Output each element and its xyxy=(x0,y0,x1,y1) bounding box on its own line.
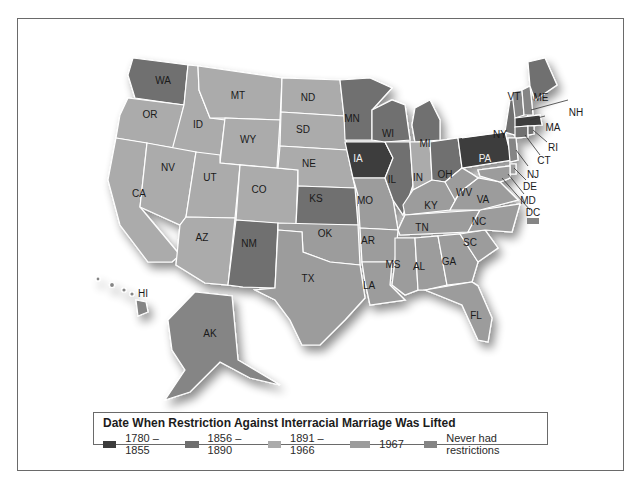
label-NJ: NJ xyxy=(527,169,539,180)
label-OR: OR xyxy=(143,109,158,120)
label-AL: AL xyxy=(413,261,426,272)
legend-item-1856-1890: 1856 – 1890 xyxy=(185,432,247,456)
label-OH: OH xyxy=(438,169,453,180)
label-GA: GA xyxy=(442,256,457,267)
state-KS xyxy=(296,186,358,225)
label-MN: MN xyxy=(344,113,360,124)
state-AK xyxy=(165,292,280,400)
legend-swatch xyxy=(424,441,437,448)
legend-items: 1780 – 1855 1856 – 1890 1891 – 1966 1967… xyxy=(103,432,538,456)
label-WV: WV xyxy=(456,187,472,198)
legend-item-never: Never had restrictions xyxy=(424,432,518,456)
legend-item-1891-1966: 1891 – 1966 xyxy=(268,432,330,456)
label-PA: PA xyxy=(479,153,492,164)
label-MD: MD xyxy=(520,195,536,206)
state-IA xyxy=(345,142,393,178)
legend-label: 1856 – 1890 xyxy=(208,432,248,456)
state-NM xyxy=(228,220,278,288)
label-MO: MO xyxy=(357,195,373,206)
state-SD xyxy=(280,112,347,150)
label-SC: SC xyxy=(463,237,477,248)
legend-swatch xyxy=(185,441,198,448)
label-VA: VA xyxy=(477,194,490,205)
label-KS: KS xyxy=(309,193,323,204)
label-ME: ME xyxy=(534,92,549,103)
state-FL xyxy=(425,282,492,342)
label-MA: MA xyxy=(546,122,561,133)
legend-label: Never had restrictions xyxy=(446,432,518,456)
label-IL: IL xyxy=(388,174,397,185)
legend-item-1967: 1967 xyxy=(350,438,403,450)
legend-swatch xyxy=(268,441,281,448)
legend-title: Date When Restriction Against Interracia… xyxy=(103,416,538,430)
label-TX: TX xyxy=(302,273,315,284)
label-CT: CT xyxy=(537,155,550,166)
label-NH: NH xyxy=(569,107,583,118)
label-AZ: AZ xyxy=(196,232,209,243)
label-CA: CA xyxy=(132,188,146,199)
label-DC: DC xyxy=(526,207,540,218)
label-SD: SD xyxy=(296,124,310,135)
label-VT: VT xyxy=(508,91,521,102)
label-NV: NV xyxy=(161,162,175,173)
legend-swatch xyxy=(350,441,370,448)
label-ID: ID xyxy=(193,119,203,130)
label-NC: NC xyxy=(472,216,486,227)
label-ND: ND xyxy=(301,92,315,103)
label-IN: IN xyxy=(413,172,423,183)
label-WY: WY xyxy=(240,134,256,145)
state-MI xyxy=(412,100,440,142)
label-RI: RI xyxy=(548,142,558,153)
dc-swatch xyxy=(527,218,539,224)
label-KY: KY xyxy=(424,200,438,211)
legend-swatch xyxy=(103,441,116,448)
state-CO xyxy=(236,165,298,225)
legend-item-1780-1855: 1780 – 1855 xyxy=(103,432,165,456)
legend-label: 1891 – 1966 xyxy=(290,432,330,456)
label-NM: NM xyxy=(241,238,257,249)
state-AZ xyxy=(176,217,235,285)
label-WA: WA xyxy=(155,75,171,86)
label-HI: HI xyxy=(138,288,148,299)
label-CO: CO xyxy=(252,184,267,195)
legend: Date When Restriction Against Interracia… xyxy=(93,412,548,445)
label-MI: MI xyxy=(419,138,430,149)
label-NE: NE xyxy=(302,158,316,169)
label-UT: UT xyxy=(203,172,216,183)
label-TN: TN xyxy=(415,222,428,233)
label-DE: DE xyxy=(523,181,537,192)
legend-label: 1967 xyxy=(379,438,403,450)
label-OK: OK xyxy=(318,228,333,239)
label-NY: NY xyxy=(493,129,507,140)
label-AK: AK xyxy=(203,328,217,339)
label-WI: WI xyxy=(382,128,394,139)
legend-label: 1780 – 1855 xyxy=(125,432,165,456)
label-IA: IA xyxy=(353,153,363,164)
label-AR: AR xyxy=(361,235,375,246)
label-FL: FL xyxy=(470,310,482,321)
label-MT: MT xyxy=(231,90,245,101)
label-LA: LA xyxy=(363,280,376,291)
label-MS: MS xyxy=(386,259,401,270)
